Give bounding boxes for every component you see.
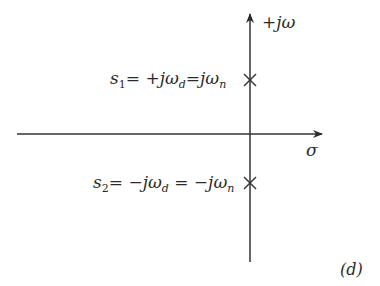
real-axis-label: σ bbox=[306, 142, 318, 159]
pole-var: s bbox=[93, 172, 102, 192]
pole-eq2-sub: n bbox=[227, 182, 234, 195]
pole-label-s1: s1= +jωd=jωn bbox=[110, 70, 226, 90]
imag-axis-label: +jω bbox=[262, 14, 295, 31]
pole-eq2: = −jω bbox=[169, 172, 227, 192]
pole-sub: 1 bbox=[119, 78, 126, 91]
pole-var: s bbox=[110, 68, 119, 88]
panel-label: (d) bbox=[340, 262, 363, 278]
pole-eq1: = −jω bbox=[109, 172, 162, 192]
pole-eq1: = +jω bbox=[126, 68, 179, 88]
pole-eq1-sub: d bbox=[179, 78, 186, 91]
pole-label-s2: s2= −jωd = −jωn bbox=[93, 174, 234, 194]
pole-eq2-sub: n bbox=[219, 78, 226, 91]
pole-eq2: =jω bbox=[186, 68, 219, 88]
pole-eq1-sub: d bbox=[162, 182, 169, 195]
splane-axes bbox=[0, 0, 380, 286]
pole-sub: 2 bbox=[102, 182, 109, 195]
